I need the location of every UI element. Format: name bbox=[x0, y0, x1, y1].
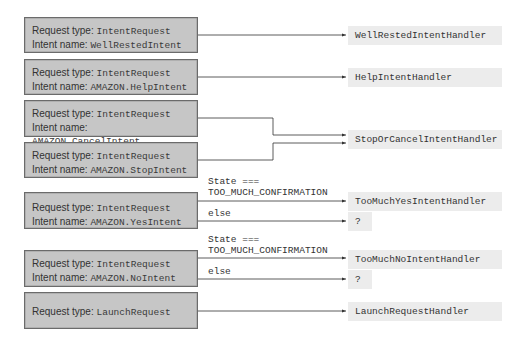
request-type-label: Request type: bbox=[32, 150, 96, 161]
handler-toomuch-yes: TooMuchYesIntentHandler bbox=[348, 192, 502, 211]
handler-yes-unknown: ? bbox=[348, 212, 372, 231]
request-box-wellrested: Request type: IntentRequest Intent name:… bbox=[24, 17, 198, 53]
arrow-stop bbox=[198, 143, 346, 160]
condition-state-line2: TOO_MUCH_CONFIRMATION bbox=[208, 187, 328, 198]
request-type-value: LaunchRequest bbox=[96, 307, 170, 318]
condition-no-state: State === TOO_MUCH_CONFIRMATION bbox=[208, 234, 328, 256]
request-box-yes: Request type: IntentRequest Intent name:… bbox=[24, 192, 198, 229]
intent-name-label: Intent name: bbox=[32, 39, 90, 50]
request-box-help: Request type: IntentRequest Intent name:… bbox=[24, 59, 198, 95]
intent-name-label: Intent name: bbox=[32, 122, 88, 133]
request-type-value: IntentRequest bbox=[96, 26, 170, 37]
request-type-label: Request type: bbox=[32, 258, 96, 269]
request-type-value: IntentRequest bbox=[96, 109, 170, 120]
request-type-label: Request type: bbox=[32, 108, 96, 119]
request-type-label: Request type: bbox=[32, 202, 96, 213]
request-type-value: IntentRequest bbox=[96, 203, 170, 214]
condition-state-line1: State === bbox=[208, 176, 328, 187]
handler-wellrested: WellRestedIntentHandler bbox=[348, 26, 502, 45]
condition-yes-else: else bbox=[208, 208, 231, 219]
request-type-label: Request type: bbox=[32, 306, 96, 317]
condition-state-line1: State === bbox=[208, 234, 328, 245]
request-box-cancel: Request type: IntentRequest Intent name:… bbox=[24, 100, 198, 137]
request-box-no: Request type: IntentRequest Intent name:… bbox=[24, 250, 198, 287]
handler-toomuch-no: TooMuchNoIntentHandler bbox=[348, 250, 502, 269]
handler-stop-or-cancel: StopOrCancelIntentHandler bbox=[348, 130, 502, 149]
handler-no-unknown: ? bbox=[348, 270, 372, 289]
intent-name-label: Intent name: bbox=[32, 81, 90, 92]
intent-name-label: Intent name: bbox=[32, 164, 90, 175]
request-type-value: IntentRequest bbox=[96, 259, 170, 270]
handler-launch: LaunchRequestHandler bbox=[348, 302, 502, 321]
condition-no-else: else bbox=[208, 266, 231, 277]
request-type-value: IntentRequest bbox=[96, 68, 170, 79]
condition-yes-state: State === TOO_MUCH_CONFIRMATION bbox=[208, 176, 328, 198]
request-type-label: Request type: bbox=[32, 67, 96, 78]
intent-name-label: Intent name: bbox=[32, 272, 90, 283]
intent-name-label: Intent name: bbox=[32, 216, 90, 227]
request-type-label: Request type: bbox=[32, 25, 96, 36]
request-box-stop: Request type: IntentRequest Intent name:… bbox=[24, 142, 198, 178]
arrow-cancel bbox=[198, 118, 346, 135]
intent-name-value: WellRestedIntent bbox=[90, 40, 181, 51]
request-box-launch: Request type: LaunchRequest bbox=[24, 292, 198, 329]
intent-name-value: AMAZON.StopIntent bbox=[90, 165, 187, 176]
intent-name-value: AMAZON.YesIntent bbox=[90, 217, 181, 228]
intent-name-value: AMAZON.HelpIntent bbox=[90, 82, 187, 93]
request-type-value: IntentRequest bbox=[96, 151, 170, 162]
condition-state-line2: TOO_MUCH_CONFIRMATION bbox=[208, 245, 328, 256]
intent-name-value: AMAZON.NoIntent bbox=[90, 273, 176, 284]
handler-help: HelpIntentHandler bbox=[348, 68, 502, 87]
